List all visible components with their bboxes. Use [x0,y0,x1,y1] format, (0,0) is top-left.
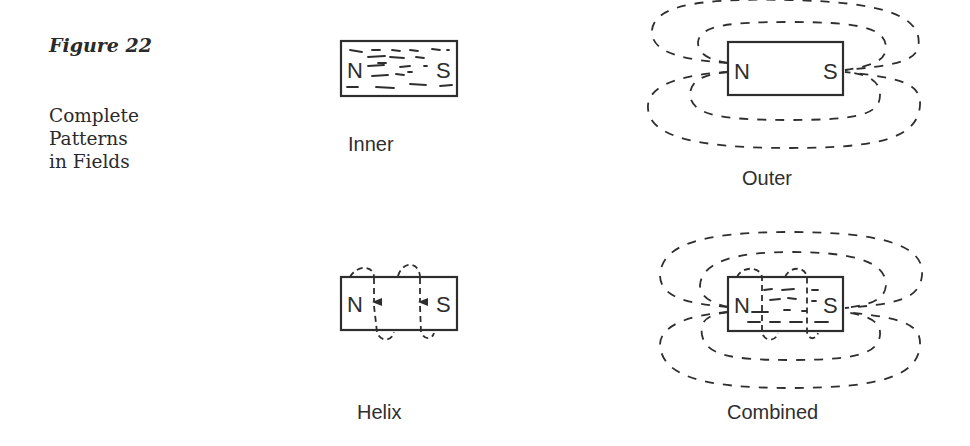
south-pole-label: S [436,292,451,317]
panel-outer: N S [648,0,920,148]
panel-combined: N S [660,232,922,388]
north-pole-label: N [734,59,750,84]
north-pole-label: N [347,292,363,317]
south-pole-label: S [823,293,838,318]
panel-label-combined: Combined [727,401,818,424]
south-pole-label: S [823,59,838,84]
panel-label-outer: Outer [742,167,792,190]
panel-label-inner: Inner [348,133,394,156]
north-pole-label: N [734,293,750,318]
panel-inner: N S [341,41,457,96]
panel-label-helix: Helix [357,401,401,424]
south-pole-label: S [436,58,451,83]
north-pole-label: N [347,58,363,83]
magnet-field-diagrams: N S N S N S [0,0,970,446]
panel-helix: N S [341,265,457,340]
